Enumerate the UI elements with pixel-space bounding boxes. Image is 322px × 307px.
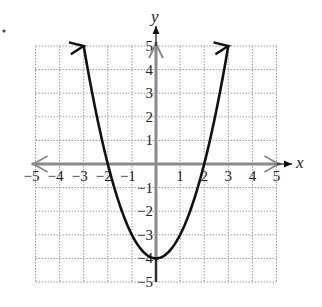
- x-tick-label: −4: [48, 168, 64, 184]
- x-tick-label: −5: [24, 168, 40, 184]
- y-tick-label: 3: [146, 85, 154, 101]
- y-tick-label: 4: [146, 62, 154, 78]
- y-axis-arrow-icon: [153, 26, 160, 34]
- x-tick-label: 1: [176, 168, 184, 184]
- x-tick-label: 3: [225, 168, 233, 184]
- x-tick-label: 4: [249, 168, 257, 184]
- x-axis-arrow-icon: [284, 161, 292, 168]
- y-tick-label: 5: [146, 38, 154, 54]
- x-tick-label: −3: [72, 168, 88, 184]
- y-tick-label: −1: [137, 180, 153, 196]
- curve-arrow-icon: [69, 42, 84, 54]
- x-tick-label: −1: [120, 168, 136, 184]
- x-axis-label: x: [295, 153, 304, 172]
- bullet-mark: [2, 29, 5, 32]
- y-tick-label: 2: [146, 109, 154, 125]
- axes: [32, 26, 293, 282]
- y-tick-label: −3: [137, 227, 153, 243]
- x-tick-label: 5: [273, 168, 281, 184]
- y-axis-label: y: [149, 7, 159, 26]
- y-tick-label: −5: [137, 274, 153, 290]
- y-tick-label: −2: [137, 203, 153, 219]
- y-tick-label: 1: [146, 132, 154, 148]
- parabola-graph: −5−4−3−2−11234554321−1−2−3−4−5 x y: [0, 0, 322, 307]
